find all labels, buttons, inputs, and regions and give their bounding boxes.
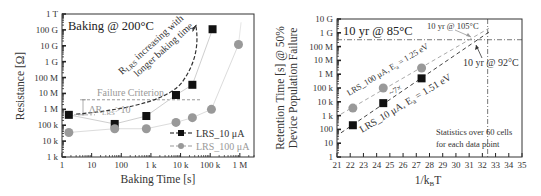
data-point-circle (142, 124, 151, 133)
stats-note-line1: Statistics over 60 cells (436, 127, 512, 137)
x-tick-label: 29 (438, 160, 448, 170)
y-tick-label: 1 k (47, 152, 59, 162)
right-y-axis-title-line2: Device Population Failure (287, 28, 300, 149)
x-tick-label: 27 (412, 160, 422, 170)
xlabel-main: 1/k (415, 174, 430, 186)
delta-r-sub: LRS (102, 109, 115, 117)
failure-criterion-label: Failure Criterion (97, 87, 164, 98)
x-tick-label: 34 (504, 160, 514, 170)
right-chart-title: 10 yr @ 85°C (343, 24, 413, 38)
x-tick-label: 10 k (173, 160, 189, 170)
x-tick-label: 33 (491, 160, 501, 170)
delta-r-main: ΔR (89, 104, 102, 115)
left-y-axis-title: Resistance [Ω] (14, 52, 26, 120)
fit-100-tail: = 1.25 eV (394, 41, 431, 69)
fit-10-tail: = 1.51 eV (411, 71, 454, 103)
data-point-circle (234, 40, 243, 49)
x-tick-label: 1 k (145, 160, 157, 170)
x-tick-label: 32 (478, 160, 487, 170)
x-tick-label: 1 (60, 160, 65, 170)
y-tick-label: 100 M (309, 42, 333, 52)
data-point-square (209, 25, 217, 33)
fit-label-10ua: LRS_10 μA, Ea = 1.51 eV (357, 71, 454, 137)
data-point-square (418, 74, 426, 82)
data-point-square (142, 112, 150, 120)
retention-baking-chart: 1 k10 k100 k1 M10 M100 M1 G10 G100 G1 T1… (0, 0, 270, 196)
y-tick-label: 10 k (42, 136, 58, 146)
y-tick-label: 1 G (45, 57, 59, 67)
y-tick-label: 100 G (36, 25, 59, 35)
y-tick-label: 10 (324, 138, 334, 148)
y-tick-label: 1 M (318, 69, 333, 79)
legend-circle-marker-icon (178, 143, 184, 149)
y-tick-label: 10 k (317, 97, 333, 107)
data-point-square (188, 81, 196, 89)
right-axis-ticks: 1101001 k10 k100 k1 M10 M100 M1 G10 G212… (309, 14, 527, 170)
x-tick-label: 26 (399, 160, 409, 170)
stats-note-line2: for each data point (436, 139, 500, 149)
x-tick-label: 28 (425, 160, 435, 170)
y-tick-label: 1 k (322, 111, 334, 121)
y-tick-label: 1 T (46, 9, 59, 19)
y-tick-label: 1 M (43, 104, 58, 114)
x-tick-label: 21 (333, 160, 342, 170)
data-point-square (349, 121, 357, 129)
right-x-axis-title: 1/kBT (415, 174, 441, 188)
y-tick-label: 10 M (39, 88, 58, 98)
delta-r-label: ΔRLRS>10 (89, 104, 131, 117)
fit-label-100ua: LRS_100 μA, Ea = 1.25 eV (345, 41, 432, 99)
data-point-circle (348, 104, 357, 113)
fit-100-sub: a (394, 64, 400, 71)
x-tick-label: 35 (518, 160, 528, 170)
label-10yr-92c: 10 yr @ 92°C (463, 57, 519, 68)
data-point-square (65, 111, 73, 119)
fit-10-main: LRS_10 μA, E (357, 95, 414, 135)
fit-10-sub: a (411, 97, 419, 106)
xlabel-sub: B (430, 180, 435, 188)
y-tick-label: 1 G (320, 28, 334, 38)
y-tick-label: 10 G (40, 41, 58, 51)
fit-100-main: LRS_100 μA, E (345, 61, 397, 98)
x-tick-label: 100 k (200, 160, 221, 170)
delta-r-tail: >10 (115, 104, 131, 115)
delta-factor-label: ~7× (387, 82, 404, 98)
y-tick-label: 1 (329, 152, 334, 162)
data-point-circle (110, 124, 119, 133)
legend-square-marker-icon (178, 130, 184, 136)
legend-lrs-100: LRS_100 μA (196, 141, 250, 152)
data-point-circle (207, 105, 216, 114)
x-tick-label: 1 M (232, 160, 247, 170)
data-point-circle (188, 113, 197, 122)
left-x-axis-title: Baking Time [s] (121, 173, 196, 186)
left-chart-title: Baking @ 200°C (68, 19, 154, 33)
label-10yr-105c: 10 yr @ 105°C (427, 21, 479, 31)
x-tick-label: 22 (346, 160, 355, 170)
right-plot-area (337, 19, 522, 157)
legend-lrs-10: LRS_10 μA (196, 128, 245, 139)
x-tick-label: 31 (465, 160, 474, 170)
y-tick-label: 10 G (315, 14, 333, 24)
xlabel-tail: T (434, 174, 441, 186)
right-y-axis-title-line1: Retention Time [s] @ 50% (274, 26, 287, 150)
y-tick-label: 100 (320, 124, 334, 134)
data-point-circle (379, 84, 388, 93)
data-point-square (172, 91, 180, 99)
right-plot-frame (337, 19, 522, 157)
y-tick-label: 100 k (313, 83, 334, 93)
data-point-circle (171, 118, 180, 127)
x-tick-label: 25 (385, 160, 395, 170)
x-tick-label: 10 (87, 160, 97, 170)
y-tick-label: 100 k (38, 120, 59, 130)
y-tick-label: 10 M (314, 55, 333, 65)
y-tick-label: 100 M (34, 73, 58, 83)
data-point-circle (64, 128, 73, 137)
x-tick-label: 100 (115, 160, 129, 170)
x-tick-label: 23 (359, 160, 369, 170)
data-point-circle (417, 64, 426, 73)
x-tick-label: 30 (451, 160, 461, 170)
data-point-square (379, 99, 387, 107)
x-tick-label: 24 (372, 160, 382, 170)
left-legend: LRS_10 μA LRS_100 μA (170, 128, 250, 152)
